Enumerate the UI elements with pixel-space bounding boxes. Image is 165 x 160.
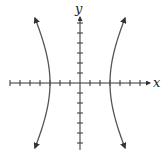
hyperbola-graph: x y [0,0,165,160]
y-axis-label: y [74,1,83,16]
x-axis-label: x [153,75,161,90]
